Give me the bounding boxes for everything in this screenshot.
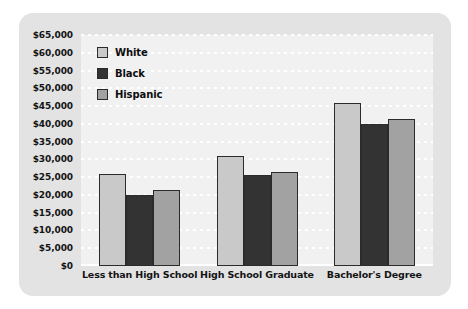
y-axis-tick-label: $20,000 — [33, 190, 73, 200]
legend-item-label: Hispanic — [115, 89, 162, 100]
bar — [153, 190, 180, 266]
legend-swatch-icon — [97, 89, 108, 100]
y-axis-tick-label: $30,000 — [33, 154, 73, 164]
bar — [271, 172, 298, 266]
bar — [361, 124, 388, 266]
bar — [99, 174, 126, 266]
legend-item: Hispanic — [97, 86, 162, 103]
y-axis-tick-label: $15,000 — [33, 207, 73, 217]
chart-panel: $65,000$60,000$55,000$50,000$45,000$40,0… — [19, 13, 451, 296]
y-axis-tick-label: $40,000 — [33, 119, 73, 129]
legend-swatch-icon — [97, 47, 108, 58]
y-axis-tick-label: $5,000 — [39, 243, 73, 253]
y-axis: $65,000$60,000$55,000$50,000$45,000$40,0… — [19, 35, 77, 266]
y-axis-tick-label: $45,000 — [33, 101, 73, 111]
bar — [244, 175, 271, 266]
y-axis-tick-label: $55,000 — [33, 65, 73, 75]
bar — [334, 103, 361, 266]
bar — [217, 156, 244, 266]
legend-item-label: Black — [115, 68, 145, 79]
y-axis-tick-label: $60,000 — [33, 48, 73, 58]
y-axis-tick-label: $65,000 — [33, 30, 73, 40]
legend-item-label: White — [115, 47, 148, 58]
bar — [126, 195, 153, 266]
legend-swatch-icon — [97, 68, 108, 79]
chart-legend: WhiteBlackHispanic — [97, 44, 162, 107]
y-axis-tick-label: $35,000 — [33, 136, 73, 146]
legend-item: Black — [97, 65, 162, 82]
y-axis-tick-label: $10,000 — [33, 225, 73, 235]
x-axis-tick-label: Less than High School — [82, 269, 197, 280]
x-axis: Less than High SchoolHigh School Graduat… — [81, 269, 433, 291]
y-axis-tick-label: $50,000 — [33, 83, 73, 93]
x-axis-tick-label: Bachelor's Degree — [327, 269, 422, 280]
legend-item: White — [97, 44, 162, 61]
gridline — [81, 34, 433, 36]
bar — [388, 119, 415, 266]
y-axis-tick-label: $25,000 — [33, 172, 73, 182]
x-axis-tick-label: High School Graduate — [200, 269, 314, 280]
y-axis-tick-label: $0 — [61, 261, 73, 271]
